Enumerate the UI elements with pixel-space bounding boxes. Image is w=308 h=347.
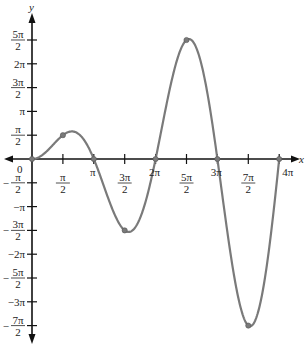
- svg-text:2: 2: [184, 183, 190, 195]
- marked-point: [91, 156, 96, 161]
- svg-text:2: 2: [15, 135, 21, 147]
- svg-text:7π: 7π: [12, 314, 24, 326]
- svg-text:−: −: [3, 177, 9, 189]
- tick-label: 7π2: [241, 171, 255, 195]
- tick-label: 3π2−: [3, 218, 25, 242]
- origin-label: 0: [17, 163, 23, 175]
- tick-label: π: [19, 105, 25, 117]
- svg-text:2: 2: [15, 40, 21, 52]
- svg-text:3π: 3π: [119, 171, 131, 183]
- svg-text:−π: −π: [13, 201, 25, 213]
- tick-label: 5π2: [11, 28, 25, 52]
- tick-label: π: [90, 166, 96, 178]
- tick-label: −3π: [8, 296, 26, 308]
- tick-label: 2π: [14, 58, 26, 70]
- y-axis-down-arrow-icon: [29, 334, 36, 344]
- svg-text:2: 2: [15, 183, 21, 195]
- svg-text:2: 2: [15, 230, 21, 242]
- svg-text:−: −: [3, 224, 9, 236]
- function-plot: π2π3π22π5π23π7π24π5π22π3π2ππ2π2−−π3π2−−2…: [0, 0, 308, 347]
- svg-text:π: π: [15, 123, 21, 135]
- svg-text:−: −: [3, 320, 9, 332]
- x-axis-left-arrow-icon: [4, 156, 13, 163]
- tick-label: 2π: [149, 166, 161, 178]
- tick-label: 3π: [211, 166, 223, 178]
- tick-label: π2: [11, 123, 25, 147]
- svg-text:2: 2: [60, 183, 66, 195]
- marked-point: [215, 156, 220, 161]
- marked-point: [246, 323, 251, 328]
- tick-label: 5π2: [180, 171, 194, 195]
- svg-text:2π: 2π: [14, 58, 26, 70]
- svg-text:2: 2: [246, 183, 252, 195]
- tick-label: 5π2−: [3, 266, 25, 290]
- svg-text:π: π: [60, 171, 66, 183]
- marked-point: [277, 156, 282, 161]
- x-axis-label: x: [298, 153, 304, 165]
- tick-label: 4π: [282, 166, 294, 178]
- marked-point: [122, 228, 127, 233]
- svg-text:3π: 3π: [12, 76, 24, 88]
- tick-label: 7π2−: [3, 314, 25, 338]
- svg-text:2: 2: [122, 183, 128, 195]
- tick-label: π2: [56, 171, 70, 195]
- y-axis-label: y: [28, 1, 34, 13]
- svg-text:5π: 5π: [181, 171, 193, 183]
- svg-text:2: 2: [15, 326, 21, 338]
- tick-label: −2π: [8, 248, 26, 260]
- y-axis-up-arrow-icon: [29, 13, 36, 23]
- svg-text:−2π: −2π: [8, 248, 26, 260]
- marked-point: [153, 156, 158, 161]
- svg-text:2: 2: [15, 278, 21, 290]
- svg-text:3π: 3π: [12, 218, 24, 230]
- svg-text:2: 2: [15, 88, 21, 100]
- tick-label: 3π2: [118, 171, 132, 195]
- tick-label: 3π2: [11, 76, 25, 100]
- svg-text:5π: 5π: [12, 28, 24, 40]
- marked-point: [60, 133, 65, 138]
- svg-text:−3π: −3π: [8, 296, 26, 308]
- tick-labels: π2π3π22π5π23π7π24π5π22π3π2ππ2π2−−π3π2−−2…: [3, 28, 294, 338]
- svg-text:−: −: [3, 272, 9, 284]
- marked-point: [29, 156, 34, 161]
- marked-point: [184, 37, 189, 42]
- svg-text:5π: 5π: [12, 266, 24, 278]
- svg-text:7π: 7π: [243, 171, 255, 183]
- tick-label: −π: [13, 201, 25, 213]
- svg-text:π: π: [19, 105, 25, 117]
